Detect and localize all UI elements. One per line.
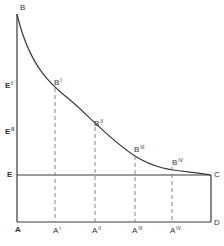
label-c: C xyxy=(214,171,220,179)
label-b1: BI xyxy=(54,78,62,87)
label-a: A xyxy=(15,226,21,234)
label-e2: EII xyxy=(5,127,14,136)
label-b4: BIV xyxy=(172,158,183,167)
label-a4: AIV xyxy=(170,226,181,235)
label-b2: BII xyxy=(94,119,103,128)
label-b3: BIII xyxy=(134,145,145,154)
diagram-lines xyxy=(0,0,224,246)
diagram-canvas: B BI BII BIII BIV EI EII E A AI AII AIII… xyxy=(0,0,224,246)
label-b: B xyxy=(20,4,25,12)
curve-bc xyxy=(17,14,211,175)
label-e1: EI xyxy=(5,81,13,90)
label-a3: AIII xyxy=(132,226,143,235)
label-a1: AI xyxy=(53,226,61,235)
label-e: E xyxy=(7,171,12,179)
label-d: D xyxy=(214,219,220,227)
label-a2: AII xyxy=(92,226,101,235)
